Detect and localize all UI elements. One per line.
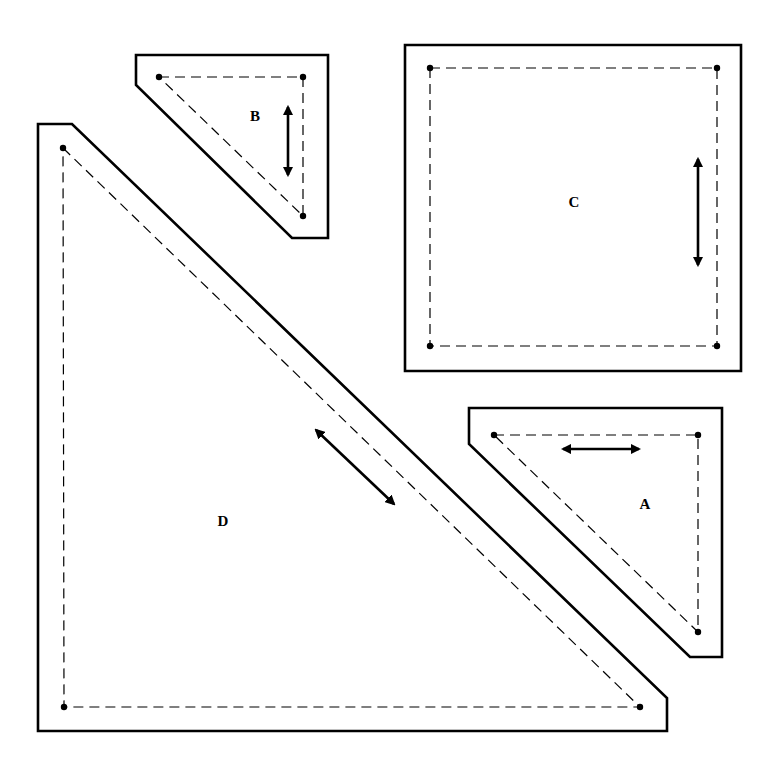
piece-b: B	[136, 55, 328, 238]
piece-a-seam-line	[494, 435, 698, 632]
corner-dot	[61, 704, 67, 710]
corner-dot	[300, 74, 306, 80]
pattern-canvas: A B C D	[0, 0, 782, 768]
corner-dot	[60, 145, 66, 151]
piece-a-label: A	[640, 496, 651, 512]
piece-c-label: C	[569, 194, 580, 210]
piece-d-grain-arrow-icon	[316, 430, 394, 504]
piece-b-label: B	[250, 108, 260, 124]
piece-b-cut-line	[136, 55, 328, 238]
corner-dot	[714, 65, 720, 71]
piece-d: D	[38, 124, 667, 731]
corner-dot	[695, 629, 701, 635]
corner-dot	[300, 213, 306, 219]
piece-d-seam-line	[63, 148, 640, 707]
corner-dot	[637, 704, 643, 710]
piece-d-label: D	[218, 513, 229, 529]
corner-dot	[156, 74, 162, 80]
piece-a: A	[469, 408, 722, 657]
corner-dot	[427, 343, 433, 349]
piece-b-seam-line	[159, 77, 303, 216]
corner-dot	[427, 65, 433, 71]
piece-a-cut-line	[469, 408, 722, 657]
piece-c: C	[405, 45, 741, 371]
corner-dot	[491, 432, 497, 438]
corner-dot	[695, 432, 701, 438]
corner-dot	[714, 343, 720, 349]
